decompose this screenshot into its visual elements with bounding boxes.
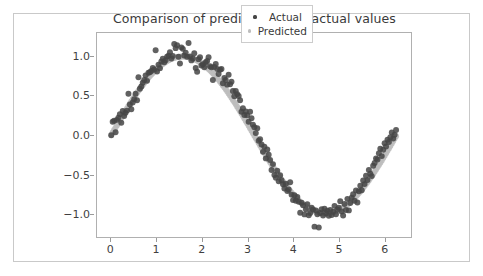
x-tick-mark — [385, 238, 386, 242]
y-tick-label: 0.5 — [73, 89, 91, 102]
x-tick-mark — [339, 238, 340, 242]
x-tick-mark — [156, 238, 157, 242]
x-tick-mark — [293, 238, 294, 242]
y-tick-label: 1.0 — [73, 49, 91, 62]
legend-marker-icon — [247, 15, 263, 18]
x-axis-tick-labels: 0123456 — [96, 243, 412, 259]
y-tick-label: −1.0 — [63, 208, 90, 221]
y-tick-mark — [90, 56, 94, 57]
x-tick-label: 5 — [335, 243, 342, 256]
scatter-canvas — [97, 33, 411, 237]
legend-label-predicted: Predicted — [252, 25, 307, 37]
matplotlib-figure: Comparison of predictions and actual val… — [0, 0, 483, 276]
y-tick-label: −0.5 — [63, 168, 90, 181]
plot-area — [96, 32, 412, 238]
y-axis-tick-labels: −1.0−0.50.00.51.0 — [56, 32, 90, 238]
y-tick-mark — [90, 214, 94, 215]
x-tick-mark — [202, 238, 203, 242]
x-tick-label: 0 — [107, 243, 114, 256]
y-tick-mark — [90, 135, 94, 136]
y-tick-mark — [90, 95, 94, 96]
y-tick-label: 0.0 — [73, 129, 91, 142]
x-tick-mark — [248, 238, 249, 242]
chart-legend: Actual Predicted — [241, 5, 313, 43]
legend-item-actual: Actual — [247, 10, 307, 24]
x-tick-label: 4 — [290, 243, 297, 256]
legend-label-actual: Actual — [263, 11, 302, 23]
x-tick-label: 3 — [244, 243, 251, 256]
legend-item-predicted: Predicted — [247, 24, 307, 38]
x-tick-mark — [110, 238, 111, 242]
x-tick-label: 6 — [381, 243, 388, 256]
x-tick-label: 1 — [153, 243, 160, 256]
y-tick-mark — [90, 175, 94, 176]
x-tick-label: 2 — [198, 243, 205, 256]
